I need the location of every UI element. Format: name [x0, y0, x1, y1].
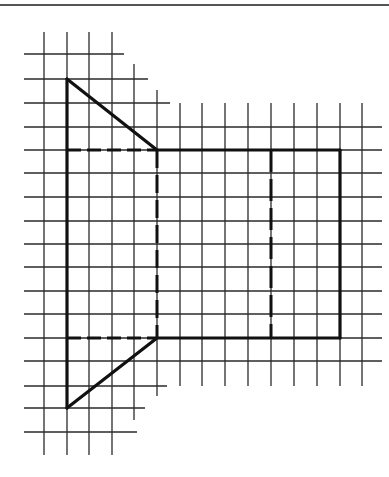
grid-paper	[24, 32, 382, 455]
net-diagram	[0, 0, 389, 477]
